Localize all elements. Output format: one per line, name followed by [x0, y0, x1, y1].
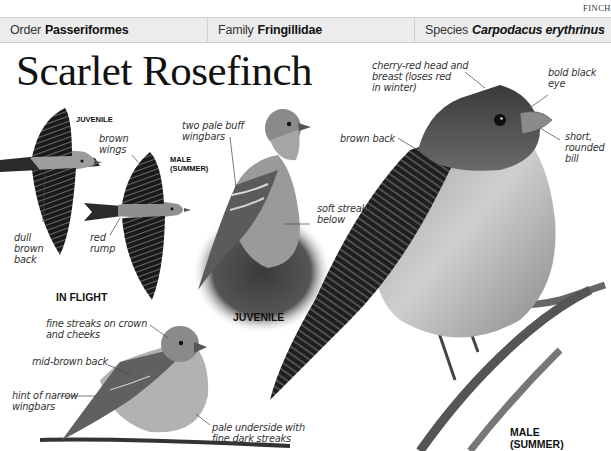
annotation-brown-back: brown back — [340, 133, 395, 144]
juvenile-flight-label: JUVENILE — [76, 115, 113, 124]
juvenile-perched-illustration — [192, 109, 332, 334]
juvenile-caption: JUVENILE — [233, 311, 284, 323]
annotation-short-bill: short, rounded bill — [565, 131, 605, 164]
annotation-narrow-wingbars: hint of narrow wingbars — [12, 390, 78, 412]
annotation-wingbars: two pale buff wingbars — [182, 120, 244, 142]
male-flight-illustration — [84, 152, 191, 300]
male-summer-caption: MALE (SUMMER) — [510, 426, 564, 450]
annotation-red-rump: red rump — [90, 232, 115, 254]
male-flight-label: MALE (SUMMER) — [170, 155, 208, 173]
annotation-soft-streaks: soft streaks below — [317, 203, 372, 225]
annotation-head-breast: cherry-red head and breast (loses red in… — [372, 60, 468, 93]
in-flight-caption: IN FLIGHT — [56, 291, 107, 303]
annotation-brown-wings: brown wings — [99, 133, 128, 155]
annotation-bold-eye: bold black eye — [548, 67, 596, 89]
annotation-mid-brown-back: mid-brown back — [32, 356, 108, 367]
annotation-fine-streaks: fine streaks on crown and cheeks — [46, 318, 147, 340]
annotation-dull-brown-back: dull brown back — [14, 232, 43, 265]
illustrations — [0, 0, 611, 451]
annotation-pale-underside: pale underside with fine dark streaks — [212, 422, 305, 444]
